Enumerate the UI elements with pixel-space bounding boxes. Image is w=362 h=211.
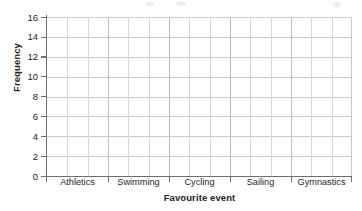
gridline-vertical bbox=[332, 17, 333, 176]
gridline-vertical-major bbox=[230, 17, 231, 176]
x-category-label-swimming: Swimming bbox=[108, 177, 169, 187]
gridline-vertical bbox=[250, 17, 251, 176]
plot-area bbox=[47, 17, 352, 176]
gridline-vertical bbox=[311, 17, 312, 176]
gridline-vertical bbox=[271, 17, 272, 176]
x-category-label-athletics: Athletics bbox=[47, 177, 108, 187]
y-tick-label: 10 bbox=[16, 71, 38, 82]
y-axis-line bbox=[46, 15, 47, 177]
y-tick-label: 6 bbox=[16, 111, 38, 122]
gridline-vertical bbox=[210, 17, 211, 176]
y-tick-label: 12 bbox=[16, 51, 38, 62]
scan-artifact bbox=[176, 1, 186, 6]
gridline-vertical-major bbox=[291, 17, 292, 176]
gridline-vertical bbox=[88, 17, 89, 176]
scan-artifact bbox=[333, 2, 341, 7]
gridline-vertical-major bbox=[169, 17, 170, 176]
gridline-horizontal bbox=[47, 116, 352, 117]
gridline-horizontal bbox=[47, 37, 352, 38]
gridline-horizontal bbox=[47, 156, 352, 157]
gridline-vertical bbox=[149, 17, 150, 176]
gridline-vertical bbox=[128, 17, 129, 176]
x-category-label-gymnastics: Gymnastics bbox=[291, 177, 352, 187]
x-axis-title: Favourite event bbox=[47, 192, 352, 203]
y-tick-label: 14 bbox=[16, 31, 38, 42]
gridline-horizontal bbox=[47, 136, 352, 137]
gridline-horizontal bbox=[47, 77, 352, 78]
x-category-label-cycling: Cycling bbox=[169, 177, 230, 187]
y-tick-label: 0 bbox=[16, 171, 38, 182]
scan-artifact bbox=[146, 2, 154, 6]
y-tick-label: 4 bbox=[16, 131, 38, 142]
gridline-horizontal bbox=[47, 17, 352, 18]
gridline-horizontal bbox=[47, 97, 352, 98]
gridline-vertical bbox=[67, 17, 68, 176]
gridline-vertical-right-edge bbox=[351, 17, 352, 176]
y-tick-label: 8 bbox=[16, 91, 38, 102]
x-category-label-sailing: Sailing bbox=[230, 177, 291, 187]
gridline-vertical-major bbox=[108, 17, 109, 176]
gridline-vertical bbox=[189, 17, 190, 176]
gridline-horizontal bbox=[47, 57, 352, 58]
y-tick-label: 2 bbox=[16, 151, 38, 162]
y-tick-label: 16 bbox=[16, 12, 38, 23]
frequency-chart: Frequency 16 14 12 10 8 6 4 2 0 bbox=[0, 0, 362, 211]
